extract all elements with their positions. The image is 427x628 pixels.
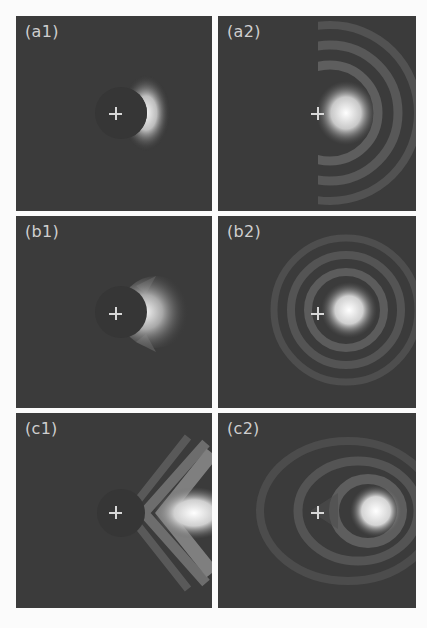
figure-grid: (a1) (a2) bbox=[0, 0, 427, 628]
cross-marker-icon bbox=[109, 107, 122, 120]
panel-a1: (a1) bbox=[16, 16, 212, 211]
cross-marker-icon bbox=[109, 307, 122, 320]
panel-label: (c1) bbox=[25, 419, 58, 438]
panel-label: (a2) bbox=[227, 22, 261, 41]
panel-label: (a1) bbox=[25, 22, 59, 41]
cross-marker-icon bbox=[311, 506, 324, 519]
panel-c2: (c2) bbox=[218, 413, 416, 608]
panel-label: (b2) bbox=[227, 222, 261, 241]
cross-marker-icon bbox=[311, 307, 324, 320]
panel-label: (c2) bbox=[227, 419, 260, 438]
panel-c1: (c1) bbox=[16, 413, 212, 608]
panel-b1: (b1) bbox=[16, 216, 212, 408]
panel-b2: (b2) bbox=[218, 216, 416, 408]
cross-marker-icon bbox=[311, 107, 324, 120]
panel-label: (b1) bbox=[25, 222, 59, 241]
cross-marker-icon bbox=[109, 506, 122, 519]
panel-a2: (a2) bbox=[218, 16, 416, 211]
